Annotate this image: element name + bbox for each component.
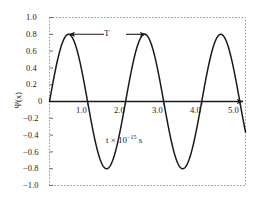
x-tick-label-4: 4.0 (190, 106, 201, 115)
period-label: T (104, 29, 110, 38)
y-tick-label-3: 0.6 (26, 47, 37, 56)
y-tick-label-4: 0.4 (26, 64, 37, 73)
y-tick-label-6: 0 (38, 97, 42, 106)
y-tick-label-2: 0.8 (26, 30, 37, 39)
y-tick-label-8: −0.4 (23, 131, 38, 140)
x-tick-label-3: 3.0 (152, 106, 163, 115)
x-tick-label-2: 2.0 (114, 106, 125, 115)
y-tick-label-11: −1.0 (23, 181, 38, 190)
x-units-annotation: t × 10−15 s (106, 136, 142, 145)
y-tick-label-9: −0.6 (23, 148, 38, 157)
x-units-suffix: s (136, 135, 142, 145)
x-tick-label-5: 5.0 (228, 106, 239, 115)
x-units-prefix: t × 10 (106, 135, 127, 145)
x-tick-label-1: 1.0 (76, 106, 87, 115)
y-tick-label-7: −0.2 (23, 114, 38, 123)
y-axis-title: Ψ(x) (14, 80, 23, 120)
y-tick-label-1: 1.0 (26, 13, 37, 22)
y-tick-label-10: −0.8 (23, 164, 38, 173)
chart-figure: 1.0 0.8 0.6 0.4 0.2 0 −0.2 −0.4 −0.6 −0.… (0, 0, 265, 198)
y-tick-label-5: 0.2 (26, 80, 37, 89)
